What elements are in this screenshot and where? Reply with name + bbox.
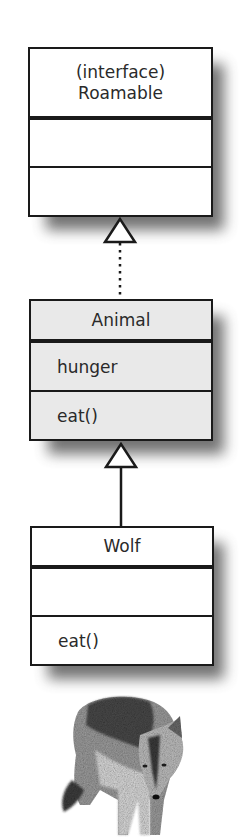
wolf-illustration-icon bbox=[0, 0, 249, 838]
